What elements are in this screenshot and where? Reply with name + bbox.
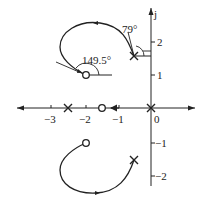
imag-axis-arrow-up-icon <box>149 8 154 15</box>
x-tick-label: −1 <box>112 113 124 125</box>
x-tick-label: −3 <box>44 113 56 125</box>
y-tick-label: −2 <box>155 170 167 182</box>
y-tick-label: 1 <box>157 69 163 81</box>
zero-marker-icon <box>83 72 90 79</box>
x-tick-label: −2 <box>79 113 91 125</box>
imaginary-axis <box>149 8 154 186</box>
zero-marker-icon <box>83 140 90 147</box>
departure-angle-label: 79° <box>122 23 137 35</box>
zero-marker-icon <box>99 105 106 112</box>
zeros <box>83 72 106 147</box>
lower-branch-arrow-icon <box>95 191 100 195</box>
real-axis-arrow-right-icon <box>188 106 195 111</box>
real-axis <box>17 106 195 111</box>
pole-marker-icon <box>130 156 138 164</box>
x-tick-label: 0 <box>154 113 160 125</box>
y-tick-label: −1 <box>155 137 167 149</box>
root-locus-plot: j −3 −2 −1 0 2 1 −1 −2 79° 149.5° <box>0 0 204 205</box>
y-tick-label: 2 <box>157 36 163 48</box>
imag-axis-label: j <box>153 8 157 20</box>
lower-locus-branch <box>60 143 134 193</box>
upper-branch-arrow-icon <box>93 21 98 25</box>
real-axis-arrow-left-icon <box>17 106 24 111</box>
arrival-angle-label: 149.5° <box>82 54 111 66</box>
